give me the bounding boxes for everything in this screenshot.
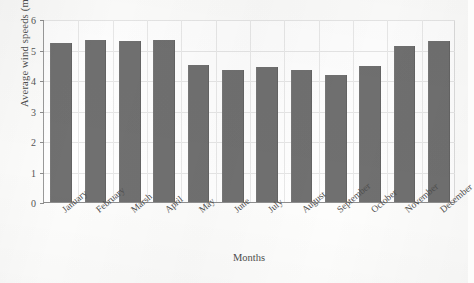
y-tick-label: 1 — [22, 167, 36, 178]
bar[interactable] — [359, 66, 381, 202]
bar-slot — [387, 20, 421, 202]
bar[interactable] — [325, 75, 347, 202]
bar-slot — [353, 20, 387, 202]
bar[interactable] — [394, 46, 416, 202]
bar-slot — [113, 20, 147, 202]
bar-slot — [216, 20, 250, 202]
y-tick-label: 5 — [22, 45, 36, 56]
bar[interactable] — [291, 70, 313, 202]
bar-slot — [284, 20, 318, 202]
plot-area — [43, 20, 455, 203]
bar-slot — [147, 20, 181, 202]
bar-slot — [44, 20, 78, 202]
x-axis-title: Months — [43, 252, 455, 263]
y-tick-label: 3 — [22, 106, 36, 117]
y-tick-mark — [40, 203, 44, 204]
bar[interactable] — [256, 67, 278, 202]
y-tick-label: 4 — [22, 76, 36, 87]
bar[interactable] — [188, 65, 210, 202]
y-tick-label: 6 — [22, 15, 36, 26]
y-tick-label: 2 — [22, 137, 36, 148]
bar-slot — [181, 20, 215, 202]
y-tick-label: 0 — [22, 198, 36, 209]
bar[interactable] — [222, 70, 244, 202]
y-axis-tick-labels: 0123456 — [20, 0, 36, 283]
bar-slot — [319, 20, 353, 202]
bar[interactable] — [50, 43, 72, 202]
bar[interactable] — [153, 40, 175, 202]
bar-slot — [250, 20, 284, 202]
bar[interactable] — [428, 41, 450, 202]
bar-slot — [422, 20, 456, 202]
bar-series — [44, 20, 455, 202]
bar[interactable] — [119, 41, 141, 202]
bar[interactable] — [85, 40, 107, 202]
bar-slot — [78, 20, 112, 202]
